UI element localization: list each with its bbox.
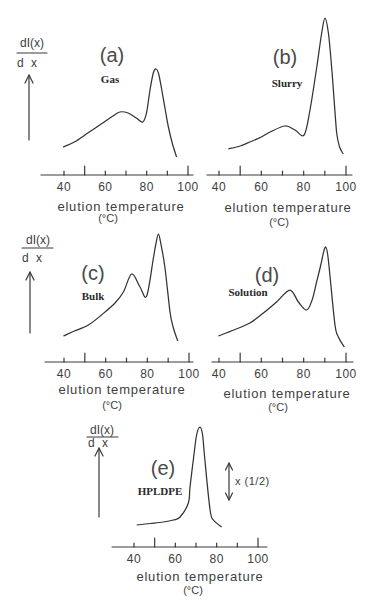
panel-label: (e)	[151, 457, 175, 479]
x-tick-label: 60	[254, 367, 268, 381]
x-tick-label: 40	[57, 180, 71, 194]
x-axis-unit: (°C)	[98, 212, 118, 224]
y-axis-label: dI(x) d x	[87, 423, 118, 517]
panel-a: dI(x) d x (a) Gas 406080100 elution temp…	[17, 36, 199, 224]
x-tick-label: 100	[335, 180, 357, 194]
x-tick-label: 60	[168, 552, 182, 566]
y-axis-label: dI(x) d x	[17, 36, 47, 140]
x-axis-unit: (°C)	[183, 584, 203, 596]
panel-c: dI(x) d x (c) Bulk 406080100 elution tem…	[22, 233, 200, 411]
distribution-curve	[137, 427, 222, 527]
plot-area: 406080100	[212, 247, 357, 381]
x-axis-label: elution temperature	[58, 382, 185, 397]
x-tick-label: 60	[98, 367, 112, 381]
x-tick-label: 60	[98, 180, 112, 194]
plot-area: 406080100	[112, 427, 269, 566]
x-tick-label: 80	[209, 552, 223, 566]
x-tick-label: 80	[140, 367, 154, 381]
arrow-up-icon	[95, 448, 103, 517]
x-axis-unit: (°C)	[269, 216, 289, 228]
x-tick-label: 100	[335, 367, 357, 381]
x-tick-label: 60	[254, 180, 268, 194]
distribution-curve	[63, 234, 177, 341]
panel-label: (a)	[100, 44, 124, 66]
sample-label: HPLDPE	[138, 485, 183, 497]
y-label-numerator: dI(x)	[90, 423, 114, 437]
y-axis-label: dI(x) d x	[22, 233, 53, 333]
y-label-numerator: dI(x)	[26, 233, 50, 247]
x-tick-label: 80	[296, 367, 310, 381]
scale-double-arrow-icon	[226, 463, 233, 500]
scale-annotation: x (1/2)	[235, 475, 270, 487]
panel-d: (d) Solution 406080100 elution temperatu…	[212, 247, 357, 413]
panel-e: dI(x) d x (e) HPLDPE x (1/2) 406080100 e…	[87, 423, 270, 596]
figure-canvas: dI(x) d x (a) Gas 406080100 elution temp…	[0, 0, 372, 616]
y-label-numerator: dI(x)	[20, 36, 44, 50]
x-axis-unit: (°C)	[102, 399, 122, 411]
sample-label: Solution	[228, 286, 267, 298]
x-tick-label: 100	[177, 180, 199, 194]
sample-label: Gas	[101, 73, 120, 85]
plot-area: 406080100	[45, 234, 200, 381]
x-axis-label: elution temperature	[57, 199, 184, 214]
y-label-denominator: d x	[17, 56, 39, 70]
x-tick-label: 40	[212, 180, 226, 194]
x-tick-label: 100	[247, 552, 269, 566]
panel-label: (d)	[255, 264, 279, 286]
panel-label: (c)	[81, 262, 104, 284]
arrow-up-icon	[25, 75, 33, 140]
x-axis-label: elution temperature	[136, 569, 263, 584]
x-axis-label: elution temperature	[224, 200, 351, 215]
x-tick-label: 40	[127, 552, 141, 566]
sample-label: Bulk	[82, 290, 106, 302]
distribution-curve	[63, 69, 177, 157]
x-tick-label: 40	[57, 367, 71, 381]
plot-area: 406080100	[41, 69, 199, 194]
panel-b: (b) Slurry 406080100 elution temperature…	[207, 18, 357, 228]
x-tick-label: 100	[178, 367, 200, 381]
x-tick-label: 40	[212, 367, 226, 381]
sample-label: Slurry	[272, 77, 303, 89]
x-axis-label: elution temperature	[223, 386, 350, 401]
panel-label: (b)	[273, 46, 297, 68]
x-tick-label: 80	[139, 180, 153, 194]
x-axis-unit: (°C)	[268, 401, 288, 413]
y-label-denominator: d x	[22, 251, 44, 265]
x-tick-label: 80	[296, 180, 310, 194]
arrow-up-icon	[26, 272, 34, 333]
plot-area: 406080100	[207, 18, 357, 194]
